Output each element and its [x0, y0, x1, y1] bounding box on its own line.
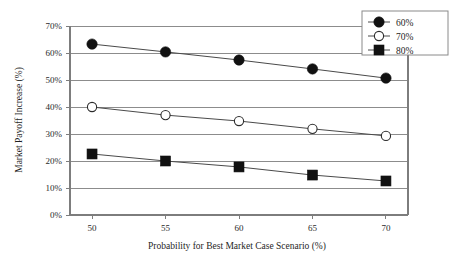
y-axis-title: Market Payoff Increase (%)	[14, 67, 25, 173]
data-point-2-4	[381, 176, 391, 186]
data-series	[87, 39, 391, 186]
data-point-0-3	[307, 64, 317, 74]
data-point-1-3	[308, 124, 317, 133]
chart-legend: 60%70%80%	[362, 11, 448, 56]
chart-figure: 0%10%20%30%40%50%60%70% 5055606570 Proba…	[0, 0, 454, 268]
data-point-1-2	[234, 116, 243, 125]
data-point-2-2	[234, 162, 244, 172]
data-point-1-4	[381, 131, 390, 140]
data-point-2-0	[87, 149, 97, 159]
legend-label-0: 60%	[396, 18, 414, 28]
data-point-0-2	[234, 55, 244, 65]
y-tick-labels: 0%10%20%30%40%50%60%70%	[46, 21, 63, 220]
legend-marker-0	[374, 17, 384, 27]
data-point-0-4	[381, 73, 391, 83]
x-tick-label-50: 50	[88, 223, 98, 233]
y-tick-label-10: 10%	[46, 183, 63, 193]
series-60pct	[87, 39, 391, 83]
data-point-0-1	[160, 47, 170, 57]
x-tick-label-70: 70	[381, 223, 391, 233]
y-tick-label-60: 60%	[46, 48, 63, 58]
y-tick-label-40: 40%	[46, 102, 63, 112]
y-tick-label-0: 0%	[50, 210, 63, 220]
series-70pct	[87, 102, 390, 140]
data-point-1-0	[87, 102, 96, 111]
y-tick-marks	[66, 26, 70, 215]
legend-marker-1	[374, 31, 383, 40]
legend-label-1: 70%	[396, 32, 414, 42]
data-point-1-1	[161, 111, 170, 120]
x-tick-marks	[92, 215, 386, 219]
y-tick-label-50: 50%	[46, 75, 63, 85]
x-tick-label-55: 55	[161, 223, 171, 233]
x-tick-labels: 5055606570	[88, 223, 391, 233]
data-point-2-1	[161, 156, 171, 166]
y-tick-label-30: 30%	[46, 129, 63, 139]
series-80pct	[87, 149, 391, 186]
line-chart: 0%10%20%30%40%50%60%70% 5055606570 Proba…	[0, 0, 454, 268]
y-tick-label-70: 70%	[46, 21, 63, 31]
legend-label-2: 80%	[396, 46, 414, 56]
data-point-0-0	[87, 39, 97, 49]
x-tick-label-60: 60	[235, 223, 245, 233]
x-tick-label-65: 65	[308, 223, 318, 233]
y-tick-label-20: 20%	[46, 156, 63, 166]
legend-marker-2	[374, 45, 384, 55]
data-point-2-3	[307, 170, 317, 180]
x-axis-title: Probability for Best Market Case Scenari…	[148, 241, 326, 252]
